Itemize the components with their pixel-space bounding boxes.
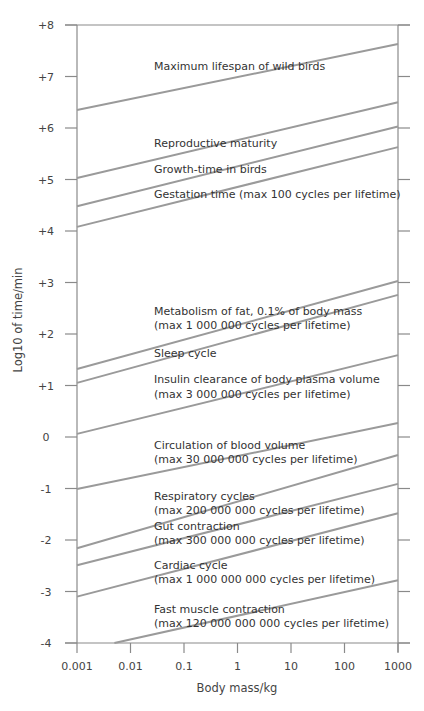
y-tick-label: +2 [38,328,54,341]
x-tick-label: 0.001 [61,660,93,673]
x-axis-ticks: 0.0010.010.11101001000 [61,643,412,673]
chart: +8+7+6+5+4+3+2+10-1-2-3-4 0.0010.010.111… [0,0,424,711]
x-axis-title: Body mass/kg [197,681,278,695]
series-line [77,147,398,227]
y-tick-label: +3 [38,277,54,290]
y-tick-label: -1 [41,483,52,496]
y-tick-label: -2 [41,534,52,547]
x-tick-label: 10 [284,660,298,673]
label-circulation-line1: Circulation of blood volume [154,439,305,452]
y-tick-label: +6 [38,122,54,135]
y-tick-label: +4 [38,225,54,238]
y-tick-label: +8 [38,19,54,32]
label-gut-line1: Gut contraction [154,520,240,533]
label-respiratory-line1: Respiratory cycles [154,490,255,503]
y-tick-label: +7 [38,71,54,84]
label-metabolism-line2: (max 1 000 000 cycles per lifetime) [154,319,351,332]
series-line [77,44,398,110]
label-gut-line2: (max 300 000 000 cycles per lifetime) [154,534,365,547]
label-cardiac-line2: (max 1 000 000 000 cycles per lifetime) [154,573,375,586]
label-respiratory-line2: (max 200 000 000 cycles per lifetime) [154,504,365,517]
label-muscle-line2: (max 120 000 000 000 cycles per lifetime… [154,617,389,630]
label-insulin-line2: (max 3 000 000 cycles per lifetime) [154,388,351,401]
series-labels: Maximum lifespan of wild birds Reproduct… [154,60,401,630]
x-tick-label: 0.1 [175,660,193,673]
label-gestation-time: Gestation time (max 100 cycles per lifet… [154,188,401,201]
y-tick-label: -3 [41,586,52,599]
y-tick-label: 0 [43,431,50,444]
label-cardiac-line1: Cardiac cycle [154,559,228,572]
label-reproductive-maturity: Reproductive maturity [154,137,278,150]
x-tick-label: 100 [334,660,355,673]
x-tick-label: 1 [234,660,241,673]
y-tick-label: +5 [38,174,54,187]
label-max-lifespan: Maximum lifespan of wild birds [154,60,325,73]
series-lines [77,44,398,643]
label-growth-time: Growth-time in birds [154,163,267,176]
x-tick-label: 1000 [384,660,412,673]
y-tick-label: -4 [41,637,52,650]
y-axis-title: Log10 of time/min [11,267,25,372]
y-tick-label: +1 [38,380,54,393]
label-insulin-line1: Insulin clearance of body plasma volume [154,373,380,386]
label-muscle-line1: Fast muscle contraction [154,603,285,616]
label-sleep-cycle: Sleep cycle [154,347,217,360]
label-metabolism-line1: Metabolism of fat, 0.1% of body mass [154,305,363,318]
label-circulation-line2: (max 30 000 000 cycles per lifetime) [154,453,358,466]
x-tick-label: 0.01 [118,660,143,673]
